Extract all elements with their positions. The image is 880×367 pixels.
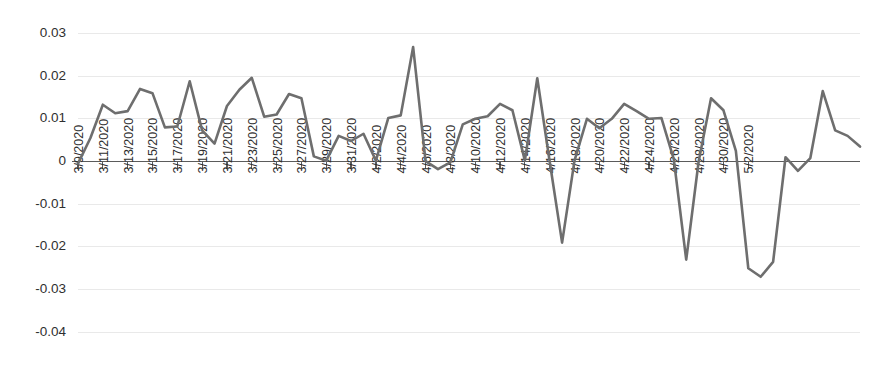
y-axis-tick-label: -0.04 [35,324,66,339]
x-axis-tick-label: 4/10/2020 [469,118,483,174]
x-axis-tick-label: 3/15/2020 [146,118,160,174]
x-axis-tick-label: 5/2/2020 [742,125,756,174]
y-axis-tick-labels: 0.030.020.010-0.01-0.02-0.03-0.04 [35,25,66,339]
x-axis-tick-label: 4/12/2020 [494,118,508,174]
y-axis-tick-label: 0.03 [40,25,66,40]
line-chart: 0.030.020.010-0.01-0.02-0.03-0.04 3/9/20… [0,0,880,367]
x-axis-tick-label: 4/4/2020 [395,125,409,174]
x-axis-tick-label: 3/31/2020 [345,118,359,174]
x-axis-tick-label: 4/22/2020 [618,118,632,174]
x-axis-tick-label: 4/24/2020 [643,118,657,174]
x-axis-tick-label: 3/11/2020 [97,119,111,174]
x-axis-tick-label: 3/19/2020 [196,118,210,174]
x-axis-tick-label: 3/29/2020 [320,118,334,174]
y-axis-tick-label: -0.02 [35,238,66,253]
x-axis-tick-label: 3/23/2020 [246,118,260,174]
gridlines [78,33,860,332]
x-axis-tick-label: 3/13/2020 [122,118,136,174]
y-axis-tick-label: 0.01 [40,110,66,125]
x-axis-tick-label: 4/18/2020 [569,118,583,174]
y-axis-tick-label: -0.03 [35,281,66,296]
x-axis-tick-label: 3/21/2020 [221,118,235,174]
chart-canvas: 0.030.020.010-0.01-0.02-0.03-0.04 3/9/20… [0,0,880,367]
y-axis-tick-label: -0.01 [35,196,66,211]
y-axis-tick-label: 0 [58,153,66,168]
y-axis-tick-label: 0.02 [40,68,66,83]
x-axis-tick-label: 4/8/2020 [444,125,458,174]
x-axis-tick-label: 3/25/2020 [271,118,285,174]
